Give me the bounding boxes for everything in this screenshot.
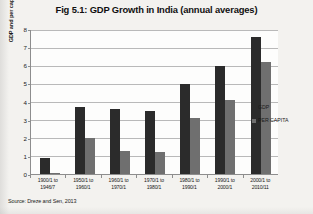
source-note: Source: Dreze and Sen, 2013 <box>8 198 76 204</box>
y-tick-label: 8 <box>24 27 27 33</box>
y-tick-label: 7 <box>24 45 27 51</box>
bar-per-capita <box>85 138 95 174</box>
chart-area: 012345678 <box>30 30 278 175</box>
bar-group <box>68 30 103 174</box>
bar-gdp <box>40 158 50 174</box>
bar-group <box>33 30 68 174</box>
y-tick-mark <box>28 121 31 122</box>
x-tick-label: 1970/1 to1980/1 <box>136 177 171 192</box>
bar-gdp <box>215 66 225 174</box>
bar-gdp <box>110 109 120 174</box>
bar-group <box>173 30 208 174</box>
y-tick-label: 2 <box>24 136 27 142</box>
y-tick-mark <box>28 103 31 104</box>
bar-group <box>208 30 243 174</box>
plot-region <box>30 30 278 175</box>
y-tick-mark <box>28 157 31 158</box>
bar-gdp <box>180 84 190 174</box>
y-tick-label: 0 <box>24 172 27 178</box>
bar-groups <box>33 30 279 174</box>
bar-group <box>103 30 138 174</box>
y-tick-mark <box>28 139 31 140</box>
bar-group <box>138 30 173 174</box>
y-tick-label: 3 <box>24 118 27 124</box>
y-tick-mark <box>28 84 31 85</box>
bar-per-capita <box>120 151 130 174</box>
x-tick-label: 1900/1 to1946/7 <box>30 177 65 192</box>
x-tick-label: 1990/1 to2000/1 <box>207 177 242 192</box>
bar-per-capita <box>155 152 165 174</box>
x-tick-label: 2000/1 to2010/11 <box>243 177 278 192</box>
y-tick-label: 6 <box>24 63 27 69</box>
legend-label: PER CAPITA <box>258 118 288 123</box>
bar-gdp <box>75 107 85 174</box>
y-tick-mark <box>28 30 31 31</box>
y-tick-label: 1 <box>24 154 27 160</box>
bar-per-capita <box>225 100 235 174</box>
bar-per-capita <box>50 173 60 174</box>
legend-gdp: GDP <box>252 105 288 110</box>
scanned-page: Fig 5.1: GDP Growth in India (annual ave… <box>0 0 313 214</box>
legend-swatch-icon <box>252 106 256 110</box>
y-tick-mark <box>28 48 31 49</box>
legend-label: GDP <box>258 105 269 110</box>
x-axis-labels: 1900/1 to1946/71950/1 to1960/11960/1 to1… <box>30 177 278 192</box>
legend-swatch-icon <box>252 119 256 123</box>
legend-per-capita: PER CAPITA <box>252 118 288 123</box>
bar-gdp <box>145 111 155 174</box>
chart-legend: GDPPER CAPITA <box>252 105 288 131</box>
figure-title: Fig 5.1: GDP Growth in India (annual ave… <box>0 4 313 15</box>
x-tick-label: 1980/1 to1990/1 <box>172 177 207 192</box>
bar-group <box>243 30 278 174</box>
y-axis-title: GDP and per capital growth <box>8 0 14 52</box>
y-tick-label: 4 <box>24 99 27 105</box>
y-tick-label: 5 <box>24 81 27 87</box>
x-tick-label: 1950/1 to1960/1 <box>65 177 100 192</box>
y-tick-mark <box>28 66 31 67</box>
x-tick-label: 1960/1 to1970/1 <box>101 177 136 192</box>
bar-per-capita <box>190 118 200 174</box>
